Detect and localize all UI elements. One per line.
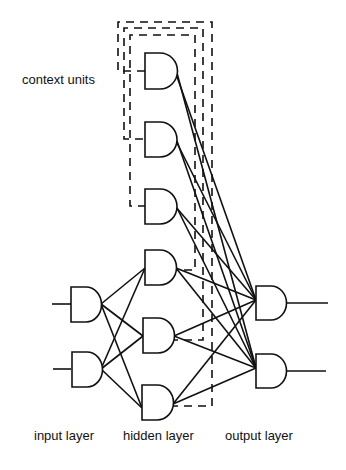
- hidden-layer-label: hidden layer: [123, 428, 194, 443]
- elman-network-diagram: [0, 0, 346, 470]
- hidden-unit-1: [145, 250, 177, 285]
- context-unit-1: [145, 53, 178, 89]
- hidden-unit-3: [142, 385, 174, 420]
- input-to-hidden-connections: [101, 268, 145, 408]
- input-unit-1: [71, 287, 102, 322]
- output-unit-2: [256, 354, 286, 388]
- context-unit-3: [145, 189, 177, 224]
- output-unit-1: [256, 286, 286, 320]
- output-layer-label: output layer: [225, 428, 293, 443]
- input-lines: [52, 304, 71, 369]
- input-layer-label: input layer: [34, 428, 94, 443]
- input-unit-2: [72, 352, 103, 387]
- context-unit-2: [145, 122, 177, 157]
- output-lines: [286, 303, 328, 371]
- hidden-unit-2: [143, 318, 175, 353]
- to-output-connections: [173, 71, 256, 404]
- context-units-label: context units: [22, 72, 95, 87]
